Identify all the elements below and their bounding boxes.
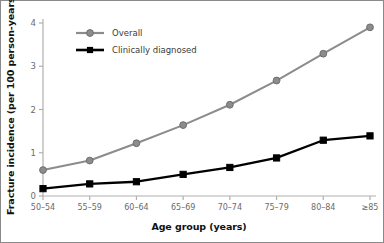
y-tick-label: 3 bbox=[31, 61, 36, 71]
data-point-marker bbox=[180, 171, 186, 177]
x-tick-label: 50–54 bbox=[31, 203, 55, 212]
x-tick-label: 65–69 bbox=[171, 203, 195, 212]
data-point-marker bbox=[133, 179, 139, 185]
data-point-marker bbox=[180, 122, 187, 129]
y-tick-label: 4 bbox=[31, 18, 36, 28]
line-chart-plot: 01234 50–5455–5960–6465–6970–7475–7980–8… bbox=[18, 5, 382, 217]
x-axis-ticks: 50–5455–5960–6465–6970–7475–7980–84≥85 bbox=[31, 196, 379, 212]
data-point-marker bbox=[320, 137, 326, 143]
x-tick-label: 75–79 bbox=[264, 203, 288, 212]
legend-swatch-marker bbox=[87, 30, 94, 37]
y-tick-label: 2 bbox=[31, 105, 36, 115]
legend-label: Overall bbox=[112, 28, 142, 38]
y-axis-ticks: 01234 bbox=[31, 18, 43, 201]
x-axis-title: Age group (years) bbox=[21, 221, 377, 232]
data-point-marker bbox=[87, 181, 93, 187]
series-overall bbox=[40, 24, 374, 174]
data-point-marker bbox=[367, 24, 374, 31]
figure-container: Fracture incidence (per 100 person-years… bbox=[0, 0, 384, 243]
legend-item-clinically-diagnosed: Clinically diagnosed bbox=[76, 45, 197, 55]
data-point-marker bbox=[320, 50, 327, 57]
data-point-marker bbox=[226, 101, 233, 108]
x-tick-label: 80–84 bbox=[311, 203, 335, 212]
data-point-marker bbox=[273, 77, 280, 84]
legend-swatch-marker bbox=[87, 47, 93, 53]
y-tick-label: 1 bbox=[31, 148, 36, 158]
x-tick-label: ≥85 bbox=[362, 203, 379, 212]
data-point-marker bbox=[133, 140, 140, 147]
data-point-marker bbox=[40, 167, 47, 174]
data-point-marker bbox=[227, 164, 233, 170]
legend-label: Clinically diagnosed bbox=[112, 45, 197, 55]
x-tick-label: 70–74 bbox=[218, 203, 242, 212]
data-point-marker bbox=[86, 157, 93, 164]
y-tick-label: 0 bbox=[31, 191, 36, 201]
data-point-marker bbox=[273, 155, 279, 161]
legend-item-overall: Overall bbox=[76, 28, 142, 38]
data-point-marker bbox=[367, 133, 373, 139]
chart-legend: OverallClinically diagnosed bbox=[76, 28, 197, 55]
x-tick-label: 55–59 bbox=[78, 203, 102, 212]
x-tick-label: 60–64 bbox=[124, 203, 148, 212]
data-point-marker bbox=[40, 186, 46, 192]
y-axis-title: Fracture incidence (per 100 person-years… bbox=[4, 5, 18, 215]
